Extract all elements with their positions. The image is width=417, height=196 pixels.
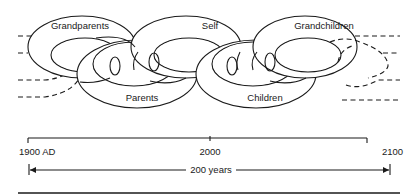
timeline-start-label: 1900 AD: [19, 147, 55, 157]
label-self: Self: [202, 21, 218, 31]
timeline-end-label: 2100: [382, 147, 403, 157]
timeline-mid-label: 2000: [199, 147, 220, 157]
span-label: 200 years: [190, 165, 232, 175]
label-grandchildren: Grandchildren: [294, 21, 354, 31]
label-parents: Parents: [126, 93, 159, 103]
generations-chain-diagram: Grandparents Parents Self Children Grand…: [0, 0, 417, 196]
label-grandparents: Grandparents: [51, 21, 109, 31]
label-children: Children: [247, 93, 282, 103]
timeline-axis: [28, 136, 367, 143]
